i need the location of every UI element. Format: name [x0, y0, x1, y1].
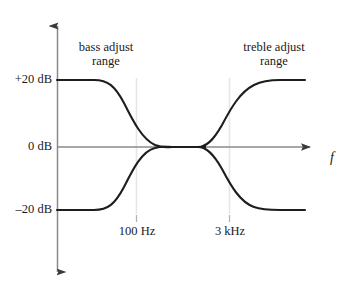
- treble-adjust-range-line2: range: [222, 54, 326, 68]
- bass-adjust-range-line1: bass adjust: [58, 40, 154, 54]
- bass-adjust-range-line2: range: [58, 54, 154, 68]
- y-tick-label-minus20: –20 dB: [0, 202, 52, 216]
- y-tick-label-plus20: +20 dB: [0, 72, 52, 86]
- x-tick-label-100hz: 100 Hz: [101, 224, 173, 238]
- x-tick-label-3khz: 3 kHz: [196, 224, 264, 238]
- curve-treble-cut: [160, 147, 305, 210]
- tone-control-response-figure: +20 dB 0 dB –20 dB 100 Hz 3 kHz f bass a…: [0, 0, 353, 293]
- bass-adjust-range-annotation: bass adjust range: [58, 40, 154, 68]
- curve-treble-boost: [160, 80, 305, 147]
- curve-bass-cut: [57, 147, 205, 210]
- treble-adjust-range-annotation: treble adjust range: [222, 40, 326, 68]
- y-tick-label-zero: 0 dB: [0, 139, 52, 153]
- frequency-axis-variable-label: f: [330, 150, 334, 166]
- treble-adjust-range-line1: treble adjust: [222, 40, 326, 54]
- curve-bass-boost: [57, 80, 205, 147]
